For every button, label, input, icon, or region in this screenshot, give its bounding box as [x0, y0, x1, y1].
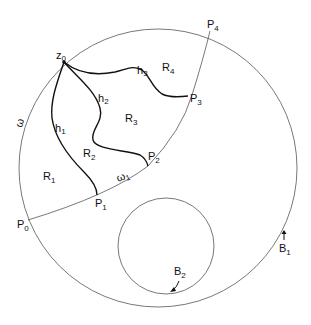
point-label-p3: P3: [190, 92, 202, 107]
arrow-up-icon: [282, 230, 287, 240]
svg-text:R2: R2: [83, 147, 96, 162]
svg-text:h1: h1: [55, 122, 66, 136]
point-label-p0: P0: [17, 218, 29, 233]
inner-boundary-circle: [118, 198, 214, 294]
svg-text:z0: z0: [56, 49, 67, 63]
crosscut-label-omega1: ω1: [115, 168, 133, 186]
svg-text:ω1: ω1: [115, 168, 133, 186]
svg-text:B2: B2: [174, 265, 186, 280]
svg-text:R4: R4: [162, 61, 175, 76]
point-label-p1: P1: [95, 197, 107, 212]
curve-h2: [64, 62, 148, 166]
svg-text:h3: h3: [137, 64, 148, 78]
svg-text:h2: h2: [98, 92, 109, 106]
svg-text:P3: P3: [190, 92, 202, 107]
svg-text:P2: P2: [148, 150, 160, 165]
region-label-r3: R3: [125, 112, 138, 127]
point-label-p2: P2: [148, 150, 160, 165]
point-label-p4: P4: [207, 18, 219, 33]
region-label-r1: R1: [43, 170, 56, 185]
boundary-label-b2: B2: [174, 265, 186, 280]
svg-text:P1: P1: [95, 197, 107, 212]
svg-text:P4: P4: [207, 18, 219, 33]
svg-text:R1: R1: [43, 170, 56, 185]
region-label-r4: R4: [162, 61, 175, 76]
curve-label-h2: h2: [98, 92, 109, 106]
curve-label-h3: h3: [137, 64, 148, 78]
boundary-label-b1: B1: [279, 242, 291, 257]
diagram: z0 P4 P3 P2 P1 P0 h1 h2 h3 R4 R3 R2 R1 ω…: [0, 0, 311, 325]
svg-text:R3: R3: [125, 112, 138, 127]
svg-text:B1: B1: [279, 242, 291, 257]
arrow-down-left-icon: [170, 281, 179, 292]
svg-text:P0: P0: [17, 218, 29, 233]
region-label-r2: R2: [83, 147, 96, 162]
svg-text:ω: ω: [12, 117, 26, 129]
vertex-label: z0: [56, 49, 67, 63]
crosscut-label-omega: ω: [12, 117, 26, 129]
curve-label-h1: h1: [55, 122, 66, 136]
